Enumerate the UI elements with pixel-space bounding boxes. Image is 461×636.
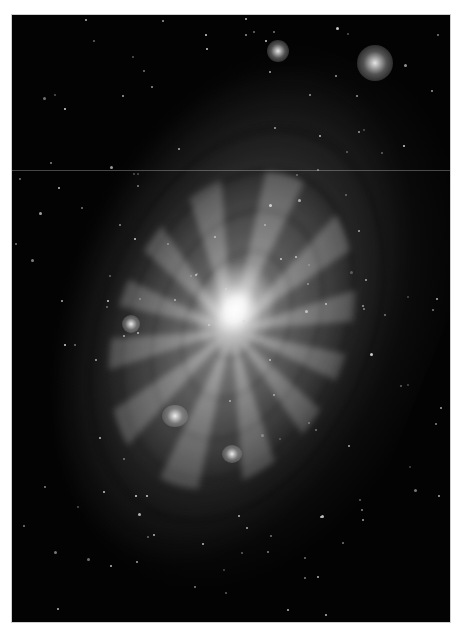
star — [440, 407, 442, 409]
star — [350, 271, 353, 274]
star — [61, 300, 63, 302]
star — [43, 97, 46, 100]
star — [39, 212, 42, 215]
star — [137, 173, 139, 175]
star — [135, 495, 137, 497]
star — [208, 324, 210, 326]
star — [363, 308, 365, 310]
star — [298, 199, 301, 202]
star — [404, 64, 407, 67]
star — [295, 256, 297, 258]
star — [317, 169, 319, 171]
star — [317, 576, 319, 578]
star — [106, 306, 108, 308]
star — [93, 40, 95, 42]
star — [58, 187, 60, 189]
star — [202, 543, 204, 545]
star — [64, 108, 66, 110]
star — [336, 27, 339, 30]
galaxy-photograph — [12, 15, 450, 622]
star — [31, 259, 34, 262]
star — [138, 513, 141, 516]
star-forming-region — [162, 405, 188, 427]
star — [123, 335, 125, 337]
star — [162, 20, 164, 22]
star — [269, 359, 271, 361]
star — [23, 525, 25, 527]
star — [365, 279, 367, 281]
star — [64, 344, 66, 346]
star — [123, 458, 125, 460]
star — [287, 609, 289, 611]
galaxy-outer-halo — [12, 15, 450, 622]
star — [151, 86, 153, 88]
star — [99, 437, 101, 439]
star — [110, 166, 113, 169]
star — [307, 283, 309, 285]
star — [267, 551, 269, 553]
star — [409, 466, 411, 468]
star — [243, 320, 245, 322]
star — [308, 264, 310, 266]
star — [225, 592, 227, 594]
star — [107, 300, 109, 302]
star — [57, 608, 59, 610]
star — [335, 75, 337, 77]
star — [381, 152, 383, 154]
star-forming-region — [222, 445, 242, 463]
star — [358, 230, 360, 232]
star — [134, 238, 136, 240]
star — [363, 129, 365, 131]
star — [274, 127, 276, 129]
star — [143, 70, 145, 72]
star — [137, 185, 139, 187]
star — [196, 273, 198, 275]
star — [348, 445, 350, 447]
star — [305, 310, 308, 313]
scan-line-artifact — [12, 170, 450, 171]
star — [146, 495, 148, 497]
star — [309, 94, 311, 96]
star — [414, 489, 417, 492]
star — [270, 535, 272, 537]
star — [245, 34, 247, 36]
dust-lanes — [20, 67, 450, 584]
star — [304, 557, 306, 559]
star — [265, 40, 267, 42]
star — [50, 162, 52, 164]
star — [261, 434, 264, 437]
star — [435, 423, 437, 425]
star — [139, 298, 141, 300]
star — [362, 305, 364, 307]
star — [87, 558, 90, 561]
star — [194, 586, 196, 588]
star — [54, 551, 57, 554]
star — [345, 194, 347, 196]
star — [273, 31, 275, 33]
star — [229, 400, 231, 402]
star — [19, 178, 21, 180]
star — [432, 309, 434, 311]
star — [44, 486, 46, 488]
star — [147, 536, 149, 538]
star — [407, 384, 409, 386]
star — [214, 236, 216, 238]
star — [304, 577, 306, 579]
star — [384, 314, 386, 316]
star — [223, 569, 225, 571]
star — [407, 296, 409, 298]
star-forming-region — [267, 40, 289, 62]
star — [205, 34, 207, 36]
star — [246, 527, 248, 529]
star — [241, 552, 243, 554]
star — [153, 534, 155, 536]
star — [296, 174, 298, 176]
spiral-arms — [64, 134, 401, 526]
star — [253, 31, 255, 33]
star — [167, 243, 169, 245]
star — [279, 438, 281, 440]
star — [132, 56, 134, 58]
star — [321, 515, 324, 518]
star — [437, 34, 439, 36]
star — [137, 332, 139, 334]
